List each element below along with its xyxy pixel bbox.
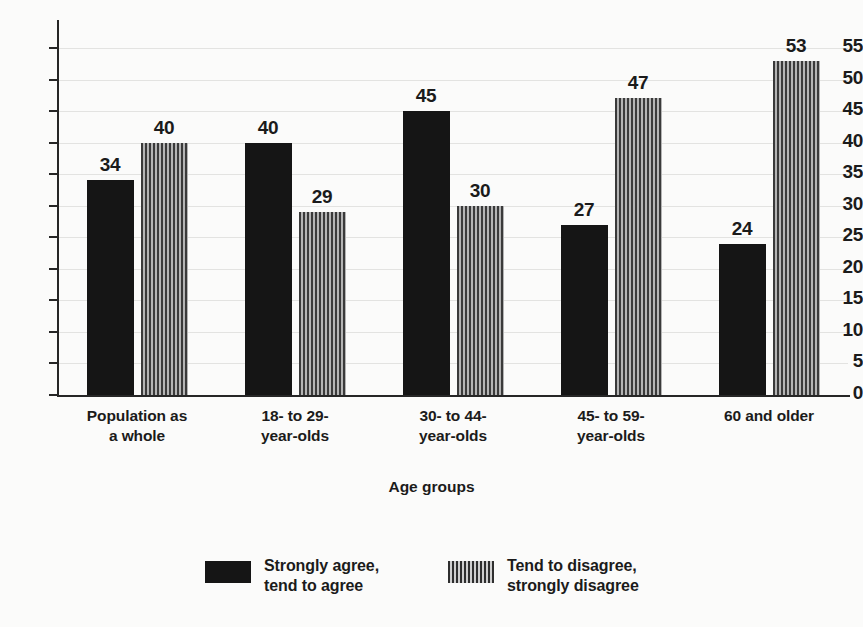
y-axis-tick-label: 5 (821, 350, 863, 372)
y-axis-tick-label: 20 (821, 256, 863, 278)
gridline (58, 111, 848, 112)
y-axis-tick (49, 362, 58, 364)
bar (87, 180, 134, 395)
bar-value-label: 40 (233, 117, 304, 139)
y-axis-tick-label: 10 (821, 319, 863, 341)
y-axis-tick (49, 142, 58, 144)
legend-item: Tend to disagree, strongly disagree (448, 556, 639, 595)
bar (141, 143, 188, 395)
legend-swatch-solid (205, 561, 251, 583)
bar (457, 206, 504, 395)
legend-label: Strongly agree, tend to agree (264, 556, 379, 595)
y-axis-tick (49, 110, 58, 112)
y-axis-tick (49, 47, 58, 49)
bar-value-label: 34 (75, 154, 146, 176)
chart-legend: Strongly agree, tend to agreeTend to dis… (0, 556, 863, 616)
y-axis-tick (49, 394, 58, 396)
bar (561, 225, 608, 395)
y-axis-tick-label: 40 (821, 130, 863, 152)
category-label: 45- to 59- year-olds (532, 406, 690, 445)
bar (245, 143, 292, 395)
y-axis-tick-label: 15 (821, 287, 863, 309)
y-axis-tick (49, 79, 58, 81)
bar-value-label: 24 (707, 218, 778, 240)
y-axis-tick (49, 331, 58, 333)
bar-value-label: 30 (445, 180, 516, 202)
bar-value-label: 45 (391, 85, 462, 107)
x-axis-line (58, 395, 850, 397)
y-axis-tick (49, 173, 58, 175)
bar-value-label: 27 (549, 199, 620, 221)
y-axis-tick-label: 35 (821, 161, 863, 183)
bar-value-label: 29 (287, 186, 358, 208)
y-axis-tick (49, 236, 58, 238)
legend-label: Tend to disagree, strongly disagree (507, 556, 639, 595)
gridline (58, 48, 848, 49)
bar-value-label: 47 (603, 72, 674, 94)
chart-page: 0510152025303540455055 34404029453027472… (0, 0, 863, 627)
bar (403, 111, 450, 395)
y-axis-tick (49, 205, 58, 207)
y-axis-tick (49, 299, 58, 301)
bar-value-label: 40 (129, 117, 200, 139)
legend-item: Strongly agree, tend to agree (205, 556, 379, 595)
y-axis-tick-label: 50 (821, 67, 863, 89)
y-axis-tick-label: 0 (821, 382, 863, 404)
bar (615, 98, 662, 395)
bar (719, 244, 766, 395)
y-axis-tick-label: 25 (821, 224, 863, 246)
category-label: 30- to 44- year-olds (374, 406, 532, 445)
y-axis-tick-label: 30 (821, 193, 863, 215)
y-axis-line (57, 20, 59, 397)
gridline (58, 80, 848, 81)
y-axis-tick-label: 45 (821, 98, 863, 120)
bar (773, 61, 820, 395)
category-label: Population as a whole (58, 406, 216, 445)
category-label: 18- to 29- year-olds (216, 406, 374, 445)
bar (299, 212, 346, 395)
y-axis-tick (49, 268, 58, 270)
bar-value-label: 53 (761, 35, 832, 57)
category-label: 60 and older (690, 406, 848, 426)
x-axis-title: Age groups (0, 478, 863, 496)
legend-swatch-striped (448, 561, 494, 583)
